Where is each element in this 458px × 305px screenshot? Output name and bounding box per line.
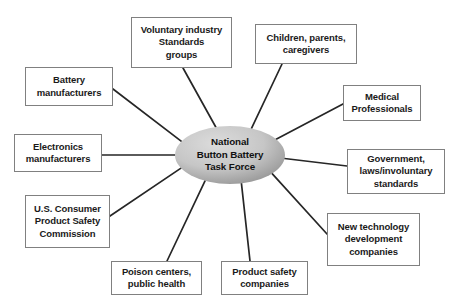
connector-line-government-laws-involuntary-standards xyxy=(285,159,347,166)
node-label-poison-centers-public-health: Poison centers, public health xyxy=(122,266,191,290)
node-box-poison-centers-public-health[interactable]: Poison centers, public health xyxy=(111,261,202,295)
connector-line-voluntary-industry-standards-groups xyxy=(183,68,216,127)
node-label-children-parents-caregivers: Children, parents, caregivers xyxy=(267,32,346,56)
node-box-us-consumer-product-safety-commission[interactable]: U.S. Consumer Product Safety Commission xyxy=(25,195,110,248)
node-label-voluntary-industry-standards-groups: Voluntary industry Standards groups xyxy=(141,24,222,60)
node-box-new-technology-development-companies[interactable]: New technology development companies xyxy=(327,213,420,266)
node-label-battery-manufacturers: Battery manufacturers xyxy=(37,74,102,98)
node-box-product-safety-companies[interactable]: Product safety companies xyxy=(221,261,308,295)
node-label-us-consumer-product-safety-commission: U.S. Consumer Product Safety Commission xyxy=(34,203,101,239)
node-label-product-safety-companies: Product safety companies xyxy=(232,266,297,290)
connector-line-us-consumer-product-safety-commission xyxy=(110,168,181,216)
node-box-government-laws-involuntary-standards[interactable]: Government, laws/involuntary standards xyxy=(347,149,445,194)
node-label-new-technology-development-companies: New technology development companies xyxy=(338,221,409,257)
node-box-electronics-manufacturers[interactable]: Electronics manufacturers xyxy=(14,134,102,172)
node-box-children-parents-caregivers[interactable]: Children, parents, caregivers xyxy=(255,24,357,64)
connector-line-children-parents-caregivers xyxy=(251,64,282,128)
connector-line-new-technology-development-companies xyxy=(272,174,327,234)
node-box-voluntary-industry-standards-groups[interactable]: Voluntary industry Standards groups xyxy=(131,17,232,68)
node-label-electronics-manufacturers: Electronics manufacturers xyxy=(26,141,91,165)
hub-node-label: National Button Battery Task Force xyxy=(197,136,264,175)
hub-node-national-button-battery-task-force[interactable]: National Button Battery Task Force xyxy=(175,126,285,184)
connector-line-medical-professionals xyxy=(276,104,343,139)
node-label-government-laws-involuntary-standards: Government, laws/involuntary standards xyxy=(360,153,433,189)
node-label-medical-professionals: Medical Professionals xyxy=(351,91,412,115)
connector-line-product-safety-companies xyxy=(241,183,250,261)
diagram-canvas: National Button Battery Task Force Volun… xyxy=(0,0,458,305)
connector-line-battery-manufacturers xyxy=(113,89,181,141)
node-box-medical-professionals[interactable]: Medical Professionals xyxy=(343,85,421,121)
connector-line-poison-centers-public-health xyxy=(167,181,205,261)
node-box-battery-manufacturers[interactable]: Battery manufacturers xyxy=(25,67,113,106)
